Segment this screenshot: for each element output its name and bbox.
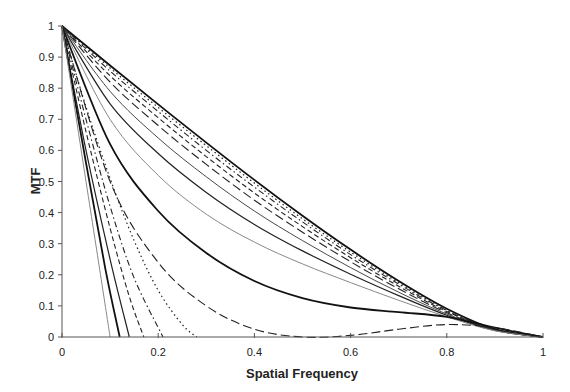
y-tick-label: 1 xyxy=(48,20,54,32)
x-tick-label: 0 xyxy=(59,346,65,358)
y-tick-label: 0.4 xyxy=(39,207,54,219)
y-tick-label: 0.1 xyxy=(39,300,54,312)
x-tick-label: 0.2 xyxy=(151,346,166,358)
y-tick-label: 0.2 xyxy=(39,269,54,281)
y-tick-label: 0 xyxy=(48,331,54,343)
y-tick-label: 0.7 xyxy=(39,113,54,125)
y-tick-label: 0.3 xyxy=(39,238,54,250)
mtf-chart: 00.10.20.30.40.50.60.70.80.91 00.20.40.6… xyxy=(0,0,570,392)
x-axis-title: Spatial Frequency xyxy=(246,366,359,381)
mtf-curve-curve-11 xyxy=(62,26,197,337)
y-axis-title: MTF xyxy=(28,168,43,195)
curve-group xyxy=(62,26,543,337)
y-tick-label: 0.6 xyxy=(39,144,54,156)
x-tick-label: 1 xyxy=(540,346,546,358)
mtf-curve-curve-16 xyxy=(62,26,110,337)
x-tick-label: 0.6 xyxy=(343,346,358,358)
y-tick-label: 0.9 xyxy=(39,51,54,63)
x-tick-label: 0.8 xyxy=(439,346,454,358)
y-tick-label: 0.8 xyxy=(39,82,54,94)
mtf-curve-curve-9 xyxy=(62,26,543,337)
x-tick-label: 0.4 xyxy=(247,346,262,358)
